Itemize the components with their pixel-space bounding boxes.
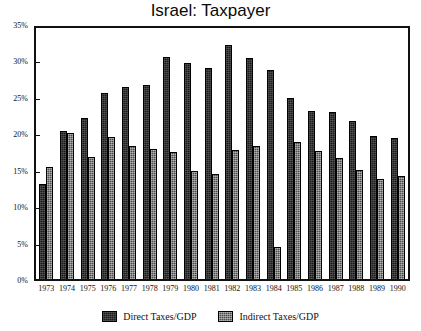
bar-indirect-1990 xyxy=(398,176,405,279)
bar-indirect-1978 xyxy=(150,149,157,279)
bar-indirect-1987 xyxy=(336,158,343,279)
bar-indirect-1985 xyxy=(294,142,301,279)
bar-indirect-1984 xyxy=(274,247,281,279)
bar-indirect-1977 xyxy=(129,146,136,279)
y-tick-label: 35% xyxy=(13,22,28,30)
plot-area xyxy=(36,28,408,279)
bar-indirect-1988 xyxy=(356,170,363,279)
bar-indirect-1975 xyxy=(88,157,95,279)
x-tick-label: 1980 xyxy=(181,284,202,294)
x-tick-label: 1981 xyxy=(201,284,222,294)
bar-group xyxy=(325,28,346,279)
legend-label: Indirect Taxes/GDP xyxy=(239,311,318,322)
bar-group xyxy=(36,28,57,279)
bar-indirect-1974 xyxy=(67,133,74,279)
legend-label: Direct Taxes/GDP xyxy=(123,311,196,322)
y-tick-label: 5% xyxy=(17,241,28,249)
bar-group xyxy=(160,28,181,279)
bar-group xyxy=(222,28,243,279)
bar-indirect-1981 xyxy=(212,174,219,279)
bar-indirect-1979 xyxy=(170,152,177,279)
bar-indirect-1973 xyxy=(46,167,53,279)
bar-direct-1978 xyxy=(143,85,150,279)
bar-indirect-1986 xyxy=(315,151,322,279)
bar-direct-1985 xyxy=(287,98,294,279)
bar-direct-1982 xyxy=(225,45,232,280)
chart-title: Israel: Taxpayer xyxy=(0,1,421,21)
x-tick-label: 1979 xyxy=(160,284,181,294)
bar-direct-1980 xyxy=(184,63,191,279)
bar-chart: Israel: Taxpayer 0%5%10%15%20%25%30%35% … xyxy=(0,0,421,331)
bar-direct-1984 xyxy=(267,70,274,279)
bar-indirect-1980 xyxy=(191,171,198,279)
bar-direct-1976 xyxy=(101,93,108,279)
bar-group xyxy=(77,28,98,279)
x-tick-label: 1984 xyxy=(263,284,284,294)
bar-group xyxy=(139,28,160,279)
y-tick-label: 0% xyxy=(17,277,28,285)
bar-group xyxy=(263,28,284,279)
x-axis: 1973197419751976197719781979198019811982… xyxy=(36,284,408,298)
x-tick-label: 1975 xyxy=(77,284,98,294)
bar-direct-1986 xyxy=(308,111,315,279)
y-tick-label: 30% xyxy=(13,58,28,66)
y-tick-label: 15% xyxy=(13,168,28,176)
bar-group xyxy=(201,28,222,279)
bar-direct-1981 xyxy=(205,68,212,279)
bar-indirect-1983 xyxy=(253,146,260,279)
x-tick-label: 1989 xyxy=(367,284,388,294)
x-tick-label: 1973 xyxy=(36,284,57,294)
x-tick-label: 1977 xyxy=(119,284,140,294)
y-axis: 0%5%10%15%20%25%30%35% xyxy=(0,26,32,281)
bar-group xyxy=(98,28,119,279)
y-tick-label: 10% xyxy=(13,204,28,212)
bar-group xyxy=(243,28,264,279)
bar-group xyxy=(387,28,408,279)
bar-group xyxy=(57,28,78,279)
bar-group xyxy=(305,28,326,279)
x-tick-label: 1988 xyxy=(346,284,367,294)
x-tick-label: 1976 xyxy=(98,284,119,294)
legend-item[interactable]: Indirect Taxes/GDP xyxy=(218,311,318,322)
bar-direct-1989 xyxy=(370,136,377,279)
bar-direct-1977 xyxy=(122,87,129,279)
bar-indirect-1976 xyxy=(108,137,115,279)
bar-group xyxy=(284,28,305,279)
x-tick-label: 1982 xyxy=(222,284,243,294)
legend-swatch-direct-icon xyxy=(102,311,117,322)
bar-direct-1979 xyxy=(163,57,170,279)
bar-direct-1974 xyxy=(60,131,67,279)
x-tick-label: 1987 xyxy=(325,284,346,294)
x-tick-label: 1983 xyxy=(243,284,264,294)
x-tick-label: 1978 xyxy=(139,284,160,294)
bar-group xyxy=(367,28,388,279)
bar-group xyxy=(346,28,367,279)
bar-group xyxy=(181,28,202,279)
y-tick-label: 25% xyxy=(13,95,28,103)
bar-group xyxy=(119,28,140,279)
bar-direct-1988 xyxy=(349,121,356,279)
bar-direct-1983 xyxy=(246,58,253,279)
y-tick-label: 20% xyxy=(13,131,28,139)
legend-item[interactable]: Direct Taxes/GDP xyxy=(102,311,196,322)
bar-direct-1987 xyxy=(329,112,336,279)
bar-direct-1973 xyxy=(39,184,46,279)
bar-direct-1990 xyxy=(391,138,398,279)
x-tick-label: 1985 xyxy=(284,284,305,294)
chart-legend: Direct Taxes/GDPIndirect Taxes/GDP xyxy=(0,306,421,326)
x-tick-label: 1990 xyxy=(387,284,408,294)
bar-indirect-1989 xyxy=(377,179,384,279)
x-tick-label: 1986 xyxy=(305,284,326,294)
bar-indirect-1982 xyxy=(232,150,239,279)
x-tick-label: 1974 xyxy=(57,284,78,294)
bar-direct-1975 xyxy=(81,118,88,279)
legend-swatch-indirect-icon xyxy=(218,311,233,322)
